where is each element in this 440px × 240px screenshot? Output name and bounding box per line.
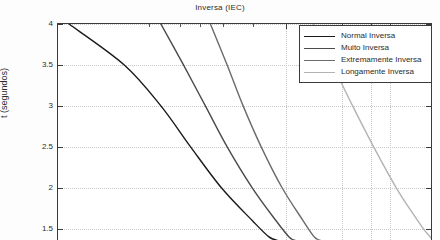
y-tick-label: 4: [49, 19, 53, 28]
chart-title: Inversa (IEC): [0, 3, 440, 12]
plot-area: Normal InversaMuito InversaExtremamente …: [57, 23, 432, 240]
legend-item[interactable]: Normal Inversa: [304, 30, 426, 42]
legend-label: Longamente Inversa: [341, 66, 414, 78]
legend-color-swatch: [304, 72, 335, 73]
legend-label: Normal Inversa: [341, 30, 395, 42]
y-tick-label: 2.5: [42, 141, 53, 150]
legend-item[interactable]: Muito Inversa: [304, 42, 426, 54]
y-axis-label: t (segundos): [0, 68, 9, 118]
curve-muito-inversa: [161, 24, 297, 240]
chart-legend: Normal InversaMuito InversaExtremamente …: [299, 25, 432, 83]
legend-item[interactable]: Longamente Inversa: [304, 66, 426, 78]
curve-normal-inversa: [69, 24, 279, 240]
legend-color-swatch: [304, 48, 335, 49]
y-tick-label: 3: [49, 100, 53, 109]
legend-label: Extremamente Inversa: [341, 54, 421, 66]
y-tick-label: 1.5: [42, 223, 53, 232]
y-tick-label: 3.5: [42, 59, 53, 68]
y-tick-label: 2: [49, 182, 53, 191]
legend-color-swatch: [304, 60, 335, 61]
chart-figure: Inversa (IEC) t (segundos) 43.532.521.5 …: [0, 0, 440, 240]
legend-label: Muito Inversa: [341, 42, 389, 54]
legend-item[interactable]: Extremamente Inversa: [304, 54, 426, 66]
legend-color-swatch: [304, 36, 335, 37]
